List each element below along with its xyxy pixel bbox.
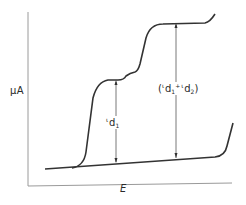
baseline-curve: [45, 123, 233, 169]
id-total-arrow-head-down: [175, 153, 178, 158]
id-total-annotation: (ιd1+ιd2): [158, 82, 198, 95]
y-axis-label: μA: [10, 85, 24, 96]
id1-sub: 1: [115, 122, 119, 129]
id1-prefix-total: ι: [162, 82, 164, 89]
id1-annotation: ιd1: [106, 116, 119, 129]
id1-prefix: ι: [106, 116, 108, 123]
id2-prefix: ι: [181, 82, 183, 89]
paren-close: ): [194, 83, 198, 94]
polarogram-plot: [0, 0, 246, 205]
x-axis: [28, 183, 232, 186]
x-axis-label: E: [120, 183, 126, 194]
polarogram-figure: μA E ιd1 (ιd1+ιd2): [0, 0, 246, 205]
id1-arrow-head-down: [115, 158, 118, 163]
id1-sub-total: 1: [171, 88, 175, 95]
plus-sign: +: [175, 82, 180, 89]
